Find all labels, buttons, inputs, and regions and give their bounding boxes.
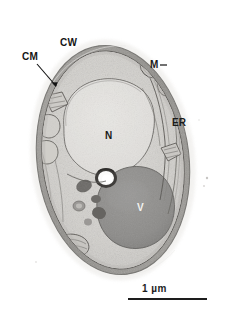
label-vacuole: V bbox=[137, 203, 144, 213]
scale-bar: 1 µm bbox=[128, 283, 210, 305]
micrograph-figure: CM CW M ER N V 1 µm bbox=[0, 0, 230, 314]
label-nucleus: N bbox=[105, 131, 112, 141]
scale-bar-label: 1 µm bbox=[142, 283, 167, 294]
label-cell-membrane: CM bbox=[22, 52, 38, 62]
scale-bar-line bbox=[128, 298, 207, 300]
label-mitochondrion: M bbox=[150, 60, 158, 70]
cell-micrograph-image bbox=[0, 0, 230, 314]
label-endoplasmic-reticulum: ER bbox=[172, 118, 186, 128]
label-cell-wall: CW bbox=[60, 38, 77, 48]
